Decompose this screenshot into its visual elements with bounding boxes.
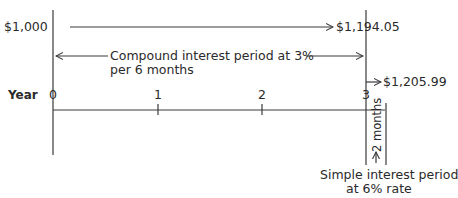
compound-label-line2: per 6 months [110, 63, 194, 77]
two-months-label: 2 months [370, 98, 384, 152]
tick-label-0: 0 [49, 88, 57, 102]
tick-label-2: 2 [258, 88, 266, 102]
final-value-label: $1,205.99 [383, 75, 447, 89]
compound-label-line1: Compound interest period at 3% [110, 49, 314, 63]
compound-value-label: $1,194.05 [336, 20, 400, 34]
tick-label-3: 3 [362, 88, 370, 102]
simple-label-line1: Simple interest period [320, 168, 458, 182]
simple-label-line2: at 6% rate [346, 182, 412, 196]
principal-label: $1,000 [4, 20, 48, 34]
axis-label-year: Year [8, 88, 38, 102]
tick-label-1: 1 [154, 88, 162, 102]
